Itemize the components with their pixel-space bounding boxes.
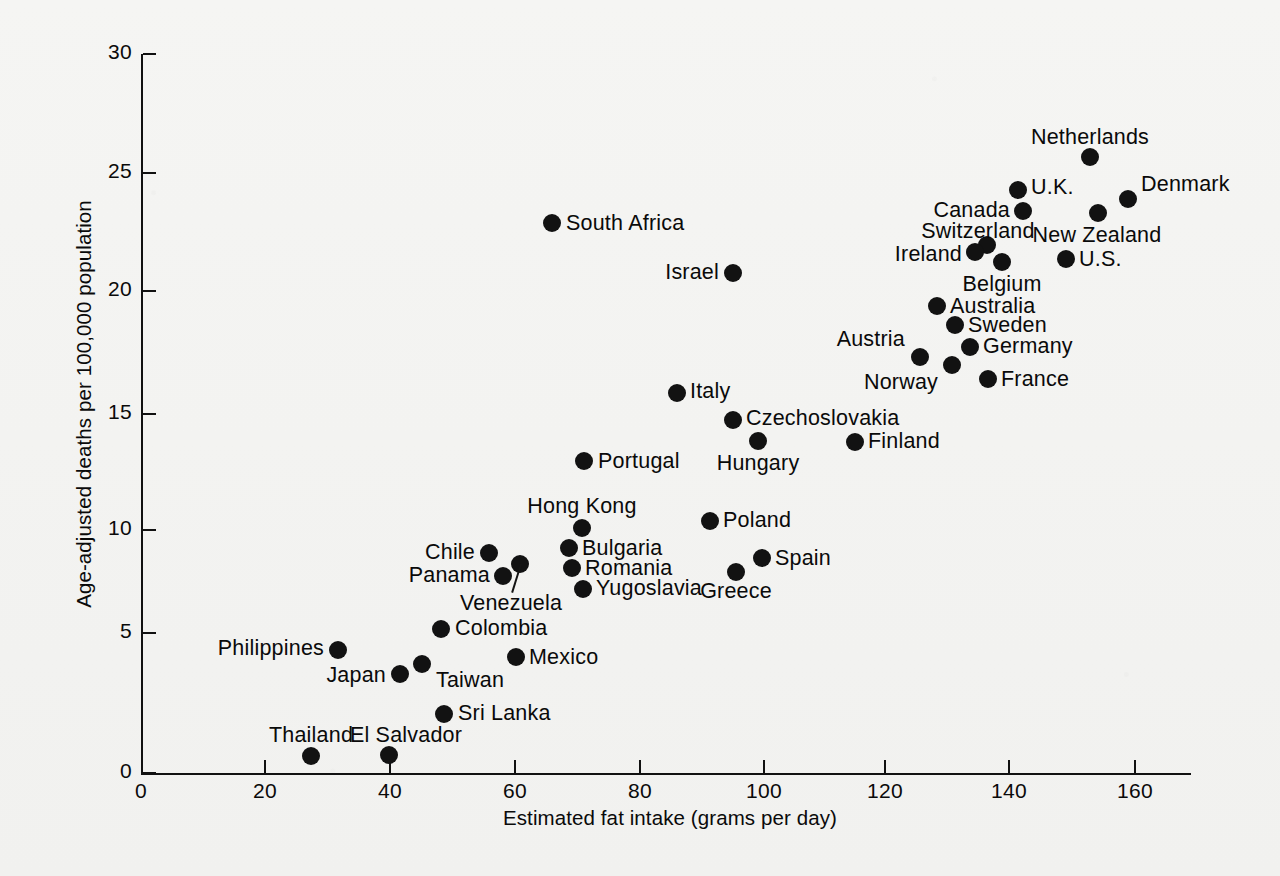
data-point-label: Germany — [983, 336, 1073, 358]
data-point-label: Israel — [665, 262, 719, 284]
data-point — [432, 620, 450, 638]
data-point — [575, 452, 593, 470]
data-point-label: Ireland — [895, 244, 962, 266]
data-point-label: Sri Lanka — [458, 703, 551, 725]
data-point — [966, 243, 984, 261]
data-point-label: Finland — [868, 431, 940, 453]
data-point-label: Chile — [425, 542, 475, 564]
scatter-plot: 051015202530 020406080100120140160 Age-a… — [0, 0, 1280, 876]
data-point-label: Greece — [700, 581, 772, 603]
data-point-label: Spain — [775, 548, 831, 570]
data-point — [413, 655, 431, 673]
data-point — [480, 544, 498, 562]
y-axis-title: Age-adjusted deaths per 100,000 populati… — [72, 124, 96, 684]
data-point — [961, 338, 979, 356]
data-point — [749, 432, 767, 450]
data-point — [943, 356, 961, 374]
x-tick-label: 20 — [230, 779, 300, 803]
data-point-label: Venezuela — [460, 593, 562, 615]
data-point-label: Switzerland — [921, 221, 1034, 243]
data-point-label: Portugal — [598, 451, 680, 473]
x-tick — [1134, 760, 1136, 774]
x-tick-label: 0 — [106, 779, 176, 803]
data-point-label: Denmark — [1141, 174, 1230, 196]
data-point — [1009, 181, 1027, 199]
data-point-label: Taiwan — [436, 670, 504, 692]
y-tick — [143, 172, 156, 174]
x-axis-title: Estimated fat intake (grams per day) — [320, 806, 1020, 830]
data-point-label: U.S. — [1079, 249, 1122, 271]
data-point — [701, 512, 719, 530]
data-point-label: Panama — [409, 565, 490, 587]
data-point — [543, 214, 561, 232]
data-point — [494, 567, 512, 585]
data-point-label: Colombia — [455, 618, 547, 640]
data-point-label: Philippines — [218, 638, 324, 660]
data-point-label: Japan — [326, 665, 386, 687]
data-point-label: Thailand — [269, 725, 353, 747]
data-point — [993, 253, 1011, 271]
data-point — [574, 580, 592, 598]
x-tick — [514, 760, 516, 774]
data-point-label: Austria — [837, 329, 905, 351]
y-tick — [143, 413, 156, 415]
data-point — [507, 648, 525, 666]
x-tick-label: 80 — [605, 779, 675, 803]
data-point-label: Czechoslovakia — [746, 408, 899, 430]
data-point — [563, 559, 581, 577]
data-point — [911, 348, 929, 366]
x-tick — [639, 760, 641, 774]
data-point-label: Hong Kong — [527, 496, 636, 518]
y-tick — [143, 290, 156, 292]
data-point — [560, 539, 578, 557]
data-point — [753, 549, 771, 567]
data-point — [329, 641, 347, 659]
x-tick — [884, 760, 886, 774]
data-point — [724, 411, 742, 429]
data-point — [724, 264, 742, 282]
data-point-label: Norway — [864, 372, 938, 394]
data-point — [573, 519, 591, 537]
y-tick-label: 30 — [72, 40, 132, 64]
data-point-label: U.K. — [1031, 177, 1074, 199]
y-tick — [143, 772, 156, 774]
x-tick-label: 40 — [355, 779, 425, 803]
data-point — [1057, 250, 1075, 268]
y-tick — [143, 632, 156, 634]
y-tick — [143, 53, 156, 55]
x-tick — [763, 760, 765, 774]
x-tick-label: 120 — [850, 779, 920, 803]
x-tick-label: 160 — [1100, 779, 1170, 803]
data-point — [1119, 190, 1137, 208]
x-tick-label: 140 — [974, 779, 1044, 803]
y-tick — [143, 529, 156, 531]
x-tick-label: 100 — [729, 779, 799, 803]
data-point-label: Hungary — [717, 453, 800, 475]
data-point — [302, 747, 320, 765]
data-point — [946, 316, 964, 334]
data-point-label: Poland — [723, 510, 791, 532]
data-point-label: El Salvador — [350, 725, 462, 747]
data-point — [391, 665, 409, 683]
x-axis-line — [141, 773, 1191, 775]
data-point — [979, 370, 997, 388]
data-point-label: Belgium — [962, 274, 1041, 296]
data-point-label: New Zealand — [1033, 225, 1162, 247]
data-point — [928, 297, 946, 315]
data-point-label: Italy — [690, 381, 730, 403]
data-point — [435, 705, 453, 723]
x-tick — [264, 760, 266, 774]
data-point — [1081, 148, 1099, 166]
data-point — [1014, 202, 1032, 220]
data-point — [1089, 204, 1107, 222]
data-point — [380, 746, 398, 764]
data-point-label: France — [1001, 369, 1069, 391]
data-point-label: Yugoslavia — [596, 578, 702, 600]
data-point — [668, 384, 686, 402]
data-point-label: Mexico — [529, 647, 598, 669]
x-tick — [1008, 760, 1010, 774]
x-tick-label: 60 — [480, 779, 550, 803]
data-point — [846, 433, 864, 451]
data-point-label: South Africa — [566, 213, 684, 235]
data-point-label: Netherlands — [1031, 127, 1149, 149]
